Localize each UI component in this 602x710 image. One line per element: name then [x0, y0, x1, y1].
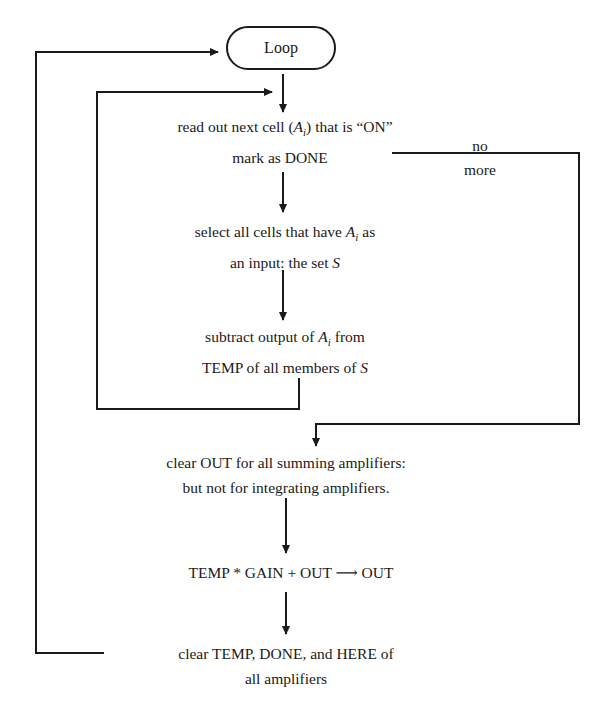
step-text: ) that is “ON”	[306, 118, 393, 135]
step-text: an input: the set	[230, 254, 332, 271]
var-a: A	[346, 223, 355, 240]
step-text: read out next cell (	[177, 118, 293, 135]
step-read-out: read out next cell (Ai) that is “ON” mar…	[100, 117, 470, 168]
step-text: from	[331, 328, 365, 345]
step-compute: TEMP * GAIN + OUT ⟶ OUT	[106, 563, 476, 583]
step-select-cells: select all cells that have Ai as an inpu…	[110, 222, 460, 273]
var-s: S	[332, 254, 340, 271]
step-clear-temp: clear TEMP, DONE, and HERE of all amplif…	[106, 644, 466, 689]
loop-start-node: Loop	[226, 26, 336, 70]
branch-no-more-line	[316, 153, 579, 446]
step-text: TEMP * GAIN + OUT ⟶ OUT	[106, 563, 476, 583]
step-clear-out: clear OUT for all summing amplifiers: bu…	[86, 453, 486, 498]
step-text: clear TEMP, DONE, and HERE of	[106, 644, 466, 664]
var-a: A	[294, 118, 303, 135]
step-text: as	[358, 223, 375, 240]
step-text: clear OUT for all summing amplifiers:	[86, 453, 486, 473]
step-text: mark as DONE	[90, 148, 470, 168]
var-a: A	[318, 328, 327, 345]
step-text: but not for integrating amplifiers.	[86, 478, 486, 498]
branch-label-more: more	[440, 160, 520, 180]
step-subtract: subtract output of Ai from TEMP of all m…	[110, 327, 460, 378]
var-s: S	[360, 359, 368, 376]
step-text: subtract output of	[205, 328, 318, 345]
branch-label-no: no	[440, 136, 520, 156]
step-text: TEMP of all members of	[202, 359, 360, 376]
step-text: select all cells that have	[195, 223, 346, 240]
loop-label: Loop	[264, 39, 298, 57]
step-text: all amplifiers	[106, 669, 466, 689]
